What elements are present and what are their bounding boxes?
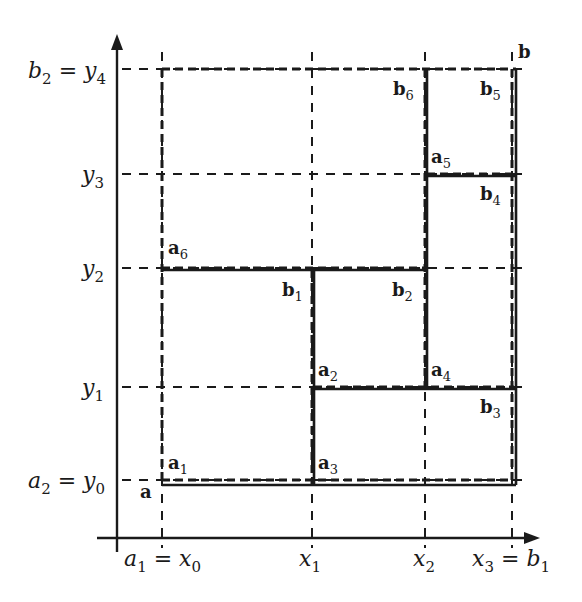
point-a5: a5 bbox=[431, 146, 451, 171]
y-axis-arrow-icon bbox=[111, 34, 123, 50]
point-b4: b4 bbox=[480, 183, 501, 208]
x-label-x2: x2 bbox=[413, 546, 435, 576]
point-b: b bbox=[518, 41, 531, 62]
point-b6: b6 bbox=[393, 78, 414, 103]
point-b3: b3 bbox=[480, 396, 501, 421]
y-label-y2: y2 bbox=[81, 256, 104, 286]
y-tick-labels: b2 = y4 y3 y2 y1 a2 = y0 bbox=[28, 58, 106, 498]
point-a4: a4 bbox=[431, 359, 451, 384]
point-a1: a1 bbox=[168, 452, 188, 477]
outer-rectangle bbox=[162, 69, 516, 485]
y-label-y0: a2 = y0 bbox=[28, 468, 105, 498]
partition-diagram: b2 = y4 y3 y2 y1 a2 = y0 a1 = x0 x1 x2 x… bbox=[0, 0, 582, 602]
y-label-y1: y1 bbox=[81, 375, 104, 405]
point-b1: b1 bbox=[282, 279, 303, 304]
subrectangle-edges bbox=[162, 69, 516, 485]
point-a: a bbox=[140, 481, 152, 502]
point-b5: b5 bbox=[480, 78, 501, 103]
x-axis-arrow-icon bbox=[524, 532, 540, 544]
y-label-y3: y3 bbox=[81, 162, 104, 192]
x-label-x3: x3 = b1 bbox=[472, 546, 550, 576]
x-label-x0: a1 = x0 bbox=[124, 546, 201, 576]
point-a3: a3 bbox=[318, 452, 338, 477]
y-label-y4: b2 = y4 bbox=[28, 58, 106, 88]
x-tick-labels: a1 = x0 x1 x2 x3 = b1 bbox=[124, 546, 550, 576]
point-labels: a b a1 a2 a3 a4 a5 a6 b1 b2 b3 b4 b5 b6 bbox=[140, 41, 531, 502]
point-b2: b2 bbox=[392, 279, 413, 304]
point-a6: a6 bbox=[168, 237, 188, 262]
x-label-x1: x1 bbox=[299, 546, 321, 576]
point-a2: a2 bbox=[318, 359, 338, 384]
